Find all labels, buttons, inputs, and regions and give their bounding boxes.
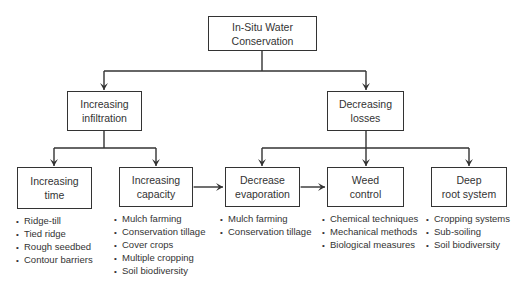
leaf-label: Decrease evaporation [235, 173, 290, 201]
branch-box-decreasing-losses: Decreasing losses [327, 91, 404, 131]
list-item: Conservation tillage [114, 226, 205, 239]
leaf-box-increasing-time: Increasing time [17, 167, 92, 209]
list-weed-control: Chemical techniques Mechanical methods B… [322, 213, 418, 252]
list-item: Mulch farming [114, 213, 205, 226]
list-item: Contour barriers [16, 254, 93, 267]
branch-label: Decreasing losses [339, 97, 392, 125]
list-item: Mulch farming [220, 213, 311, 226]
list-decrease-evaporation: Mulch farming Conservation tillage [220, 213, 311, 239]
list-increasing-time: Ridge-till Tied ridge Rough seedbed Cont… [16, 215, 93, 267]
list-deep-root-system: Cropping systems Sub-soiling Soil biodiv… [426, 213, 510, 252]
leaf-label: Increasing time [30, 174, 78, 202]
branch-box-increasing-infiltration: Increasing infiltration [67, 91, 142, 131]
list-item: Soil biodiversity [426, 239, 510, 252]
list-item: Sub-soiling [426, 226, 510, 239]
leaf-box-deep-root-system: Deep root system [431, 167, 507, 207]
list-item: Ridge-till [16, 215, 93, 228]
list-item: Mechanical methods [322, 226, 418, 239]
leaf-box-weed-control: Weed control [327, 167, 404, 207]
root-label: In-Situ Water Conservation [232, 20, 294, 48]
leaf-box-increasing-capacity: Increasing capacity [119, 167, 193, 207]
list-item: Biological measures [322, 239, 418, 252]
list-item: Chemical techniques [322, 213, 418, 226]
list-item: Tied ridge [16, 228, 93, 241]
list-item: Conservation tillage [220, 226, 311, 239]
list-increasing-capacity: Mulch farming Conservation tillage Cover… [114, 213, 205, 278]
list-item: Soil biodiversity [114, 265, 205, 278]
list-item: Cover crops [114, 239, 205, 252]
leaf-box-decrease-evaporation: Decrease evaporation [225, 167, 300, 207]
leaf-label: Increasing capacity [132, 173, 180, 201]
list-item: Cropping systems [426, 213, 510, 226]
leaf-label: Deep root system [442, 173, 496, 201]
list-item: Multiple cropping [114, 252, 205, 265]
root-box-in-situ-water-conservation: In-Situ Water Conservation [208, 16, 317, 51]
branch-label: Increasing infiltration [80, 97, 128, 125]
list-item: Rough seedbed [16, 241, 93, 254]
leaf-label: Weed control [350, 173, 382, 201]
